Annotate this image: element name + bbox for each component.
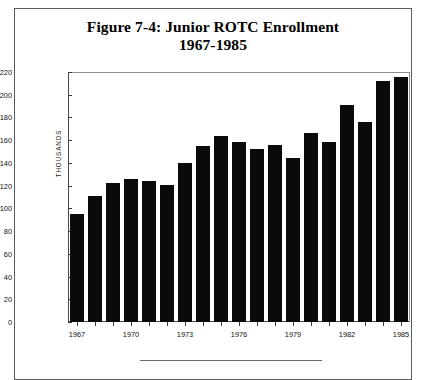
x-axis-tick-mark <box>185 322 186 326</box>
bar-1984 <box>376 81 390 322</box>
bar-1977 <box>250 149 264 322</box>
bar-1967 <box>70 214 84 322</box>
bar-1982 <box>340 105 354 322</box>
bar-1972 <box>160 185 174 323</box>
x-axis-tick-label: 1976 <box>219 330 259 339</box>
x-axis-tick-mark <box>401 322 402 326</box>
bar-1975 <box>214 136 228 322</box>
bar-1980 <box>304 133 318 322</box>
bar-1971 <box>142 181 156 322</box>
x-axis-tick-mark <box>113 322 114 326</box>
x-axis-tick-label: 1979 <box>273 330 313 339</box>
x-axis-tick-mark <box>239 322 240 326</box>
x-axis-tick-mark <box>203 322 204 326</box>
bar-1968 <box>88 196 102 322</box>
y-axis-tick-mark <box>68 322 72 323</box>
bar-1976 <box>232 142 246 322</box>
x-axis-tick-mark <box>257 322 258 326</box>
x-axis-tick-mark <box>149 322 150 326</box>
x-axis-tick-label: 1982 <box>327 330 367 339</box>
x-axis-tick-mark <box>275 322 276 326</box>
bar-1979 <box>286 158 300 322</box>
bar-1969 <box>106 183 120 322</box>
bar-1983 <box>358 122 372 322</box>
bar-1973 <box>178 163 192 322</box>
x-axis-tick-mark <box>311 322 312 326</box>
x-axis-tick-mark <box>77 322 78 326</box>
x-axis-tick-mark <box>167 322 168 326</box>
x-axis-tick-label: 1970 <box>111 330 151 339</box>
x-axis-tick-mark <box>365 322 366 326</box>
x-axis-tick-mark <box>293 322 294 326</box>
bar-1981 <box>322 142 336 322</box>
bar-series <box>0 0 426 322</box>
x-axis-tick-mark <box>347 322 348 326</box>
x-axis-tick-mark <box>131 322 132 326</box>
bottom-divider <box>140 360 322 361</box>
x-axis-tick-label: 1967 <box>57 330 97 339</box>
x-axis-tick-label: 1985 <box>381 330 421 339</box>
bar-1985 <box>394 77 408 322</box>
x-axis-tick-label: 1973 <box>165 330 205 339</box>
bar-1970 <box>124 179 138 322</box>
x-axis-tick-mark <box>221 322 222 326</box>
x-axis-tick-mark <box>95 322 96 326</box>
x-axis-tick-mark <box>383 322 384 326</box>
bar-1978 <box>268 145 282 322</box>
bar-1974 <box>196 146 210 322</box>
x-axis-tick-mark <box>329 322 330 326</box>
